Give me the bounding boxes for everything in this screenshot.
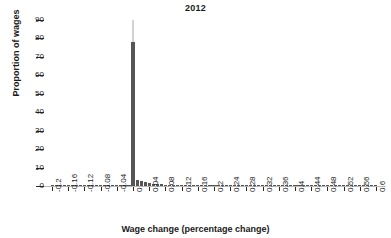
x-tick-label: -0.08 [104, 174, 112, 192]
x-tick-mark [214, 187, 215, 191]
x-tick-mark [344, 187, 345, 191]
x-tick-label: 0.12 [185, 176, 193, 192]
x-tick-mark [279, 187, 280, 191]
x-tick-label: 0.32 [266, 176, 274, 192]
x-tick-label: 0.24 [233, 176, 241, 192]
x-tick-mark [360, 187, 361, 191]
x-tick-mark [198, 187, 199, 191]
x-tick-label: 0.08 [168, 176, 176, 192]
x-tick-label: 0.4 [298, 181, 306, 192]
x-tick-label: 0.6 [379, 181, 387, 192]
x-tick-label: 0.44 [314, 176, 322, 192]
x-tick-label: 0.52 [347, 176, 355, 192]
x-tick-mark [182, 187, 183, 191]
x-axis-ticks: -0.2-0.16-0.12-0.08-0.0400.040.080.120.1… [0, 0, 391, 238]
x-tick-mark [133, 187, 134, 191]
x-tick-label: 0.2 [217, 181, 225, 192]
x-tick-mark [101, 187, 102, 191]
x-tick-label: 0 [136, 188, 144, 192]
x-tick-label: -0.16 [71, 174, 79, 192]
x-tick-label: 0.48 [330, 176, 338, 192]
histogram-figure: 2012 Proportion of wages 010203040506070… [0, 0, 391, 238]
x-tick-label: 0.16 [201, 176, 209, 192]
x-tick-label: -0.04 [120, 174, 128, 192]
x-tick-mark [376, 187, 377, 191]
x-tick-label: -0.2 [55, 178, 63, 192]
x-axis-label: Wage change (percentage change) [0, 224, 391, 234]
x-tick-mark [295, 187, 296, 191]
x-tick-label: 0.28 [249, 176, 257, 192]
x-tick-label: 0.56 [363, 176, 371, 192]
x-tick-label: -0.12 [87, 174, 95, 192]
x-tick-mark [311, 187, 312, 191]
x-tick-mark [263, 187, 264, 191]
x-tick-label: 0.04 [152, 176, 160, 192]
x-tick-mark [117, 187, 118, 191]
x-tick-label: 0.36 [282, 176, 290, 192]
x-tick-mark [52, 187, 53, 191]
